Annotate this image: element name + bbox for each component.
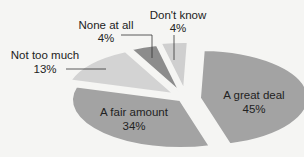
label-a-fair-amount: A fair amount (100, 106, 169, 118)
value-none-at-all: 4% (98, 32, 115, 44)
pie-chart: A great deal 45% A fair amount 34% Not t… (0, 0, 304, 157)
label-none-at-all: None at all (79, 19, 134, 31)
value-not-too-much: 13% (33, 63, 56, 75)
value-a-fair-amount: 34% (122, 120, 145, 132)
label-dont-know: Don't know (150, 9, 207, 21)
label-a-great-deal: A great deal (223, 89, 284, 101)
value-a-great-deal: 45% (242, 103, 265, 115)
value-dont-know: 4% (170, 22, 187, 34)
label-not-too-much: Not too much (11, 49, 79, 61)
